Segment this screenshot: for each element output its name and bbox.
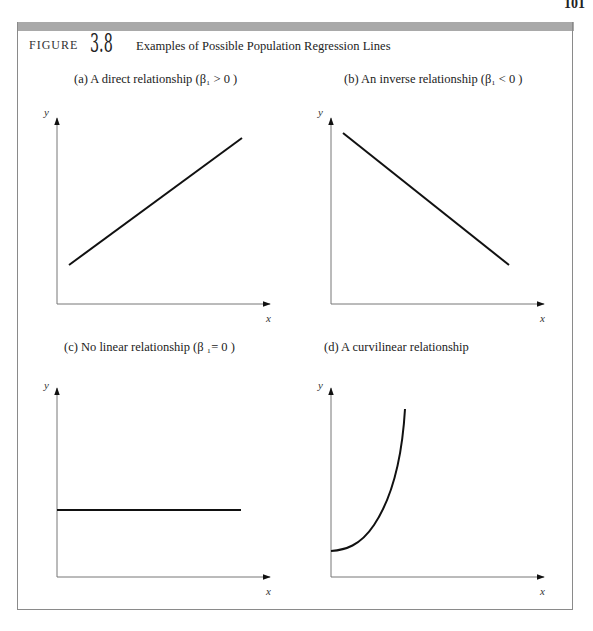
plots-canvas: y x y x y x y x — [0, 0, 593, 631]
y-axis-label: y — [317, 106, 323, 118]
regression-line — [343, 133, 509, 265]
y-axis-label: y — [43, 106, 49, 118]
x-axis-label: x — [539, 312, 545, 324]
panel-a-plot: y x — [43, 106, 271, 324]
x-axis-label: x — [265, 312, 271, 324]
x-axis-label: x — [539, 585, 545, 597]
x-axis-label: x — [265, 585, 271, 597]
panel-b-plot: y x — [317, 106, 545, 324]
y-axis-label: y — [317, 379, 323, 391]
y-axis-label: y — [43, 379, 49, 391]
curvilinear-curve — [331, 409, 405, 551]
panel-d-plot: y x — [317, 379, 545, 597]
panel-c-plot: y x — [43, 379, 271, 597]
regression-line — [69, 138, 242, 265]
